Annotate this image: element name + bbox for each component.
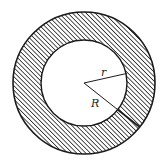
inner-radius-label: r xyxy=(101,66,107,79)
outer-radius-label: R xyxy=(90,97,99,110)
hatched-ring xyxy=(0,0,164,160)
annulus-diagram: r R xyxy=(0,0,164,160)
